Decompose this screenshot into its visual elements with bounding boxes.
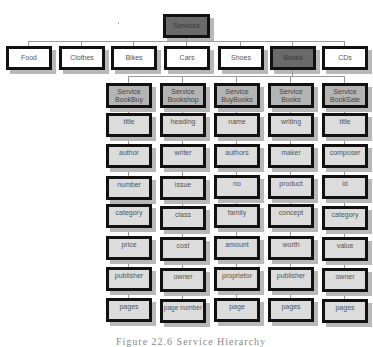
attribute-node: writer [160,144,206,168]
attribute-label: name [228,118,246,126]
attribute-label: pages [335,304,354,312]
category-label: Cars [180,54,195,62]
attribute-node: id [322,175,368,199]
attribute-label: title [124,118,135,126]
attribute-node: author [106,144,152,168]
connector [128,76,129,83]
attribute-node: page [214,298,260,322]
attribute-node: page number [160,299,206,323]
attribute-node: family [214,204,260,228]
service-label: Books [281,96,300,103]
attribute-node: owner [160,268,206,292]
attribute-node: composer [322,144,368,168]
attribute-node: worth [268,236,314,260]
attribute-label: writing [281,118,301,126]
category-label: Shoes [231,54,251,62]
figure-caption: Figure 22.6 Service Hierarchy [116,336,266,347]
attribute-node: price [106,236,152,260]
attribute-label: page number [164,304,202,312]
service-label: Service [279,88,302,95]
category-label: Food [21,54,37,62]
service-label: BookSale [330,96,360,103]
attribute-node: no [214,175,260,199]
attribute-label: product [279,180,302,188]
attribute-node: publisher [268,267,314,291]
attribute-node: pages [268,298,314,322]
stray-mark [118,22,119,24]
attribute-label: pages [119,303,138,311]
attribute-label: title [340,118,351,126]
attribute-label: authors [225,149,248,157]
attribute-node: authors [214,144,260,168]
service-node-booksale: ServiceBookSale [322,83,368,108]
service-label: Service [171,88,194,95]
attribute-node: product [268,175,314,199]
attribute-label: class [175,211,191,219]
attribute-label: maker [281,149,300,157]
attribute-node: issue [160,176,206,200]
connector [290,76,291,83]
attribute-label: owner [335,273,354,281]
service-node-buybooks: ServiceBuyBooks [214,83,260,108]
service-label: Service [333,88,356,95]
attribute-node: pages [322,299,368,323]
attribute-node: category [322,206,368,230]
attribute-node: publisher [106,267,152,291]
attribute-node: proprietor [214,267,260,291]
attribute-label: value [337,242,354,250]
attribute-label: concept [279,209,304,217]
attribute-label: heading [171,118,196,126]
attribute-node: concept [268,204,314,228]
service-label: BookBuy [115,96,143,103]
attribute-label: price [121,241,136,249]
attribute-label: publisher [115,272,143,280]
category-node-shoes: Shoes [218,46,264,70]
attribute-node: maker [268,144,314,168]
attribute-label: composer [330,149,361,157]
attribute-label: issue [175,181,191,189]
category-node-clothes: Clothes [59,46,105,70]
attribute-label: no [233,180,241,188]
attribute-label: id [342,180,347,188]
attribute-label: page [229,303,245,311]
attribute-label: worth [282,241,299,249]
attribute-node: number [106,176,152,200]
attribute-label: pages [281,303,300,311]
category-label: Bikes [125,54,142,62]
connector [344,76,345,83]
service-node-bookbuy: ServiceBookBuy [106,83,152,108]
attribute-node: cost [160,237,206,261]
service-node-books: ServiceBooks [268,83,314,108]
attribute-label: publisher [277,272,305,280]
attribute-label: category [116,209,143,217]
attribute-node: pages [106,298,152,322]
category-label: CDs [338,54,352,62]
attribute-label: proprietor [222,272,252,280]
category-node-books: Books [270,46,316,70]
category-node-bikes: Bikes [111,46,157,70]
attribute-label: amount [225,241,248,249]
category-node-food: Food [6,46,52,70]
attribute-label: cost [177,242,190,250]
attribute-node: writing [268,113,314,137]
category-label: Clothes [70,54,94,62]
attribute-label: author [119,149,139,157]
category-node-cars: Cars [164,46,210,70]
connector [236,76,237,83]
attribute-node: amount [214,236,260,260]
attribute-node: title [322,113,368,137]
root-node-label: Services [173,22,200,30]
connector [182,76,183,83]
attribute-label: family [228,209,246,217]
attribute-node: name [214,113,260,137]
attribute-label: category [332,211,359,219]
service-label: Service [225,88,248,95]
attribute-node: class [160,206,206,230]
attribute-node: owner [322,268,368,292]
service-label: Service [117,88,140,95]
attribute-node: title [106,113,152,137]
root-node-services: Services [163,14,210,38]
attribute-node: value [322,237,368,261]
attribute-label: writer [174,149,191,157]
category-node-cds: CDs [322,46,368,70]
